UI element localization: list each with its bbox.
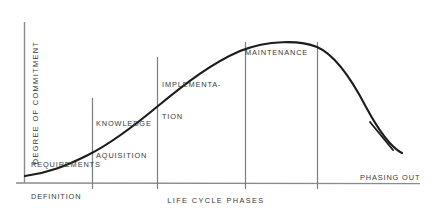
phase-label-line: DEFINITION (31, 192, 101, 203)
phase-label-maintenance: MAINTENANCE (245, 27, 308, 80)
phasing-out-leader-line (370, 122, 393, 150)
phase-label-line: PHASING OUT (360, 173, 420, 184)
chart-figure: DEGREE OF COMMITMENT LIFE CYCLE PHASES R… (0, 0, 432, 216)
phase-label-line: KNOWLEDGE (96, 119, 152, 130)
phase-label-line: REQUIREMENTS (31, 160, 101, 171)
phase-label-requirements-definition: REQUIREMENTS DEFINITION (31, 139, 101, 216)
phase-label-line: AQUISITION (96, 151, 152, 162)
phase-label-line: MAINTENANCE (245, 48, 308, 59)
phase-label-phasing-out: PHASING OUT (360, 152, 420, 205)
phase-label-line: TION (162, 112, 221, 123)
phase-label-knowledge-aquisition: KNOWLEDGE AQUISITION (96, 98, 152, 182)
phase-label-line: IMPLEMENTA- (162, 80, 221, 91)
phase-label-implementation: IMPLEMENTA- TION (162, 59, 221, 143)
